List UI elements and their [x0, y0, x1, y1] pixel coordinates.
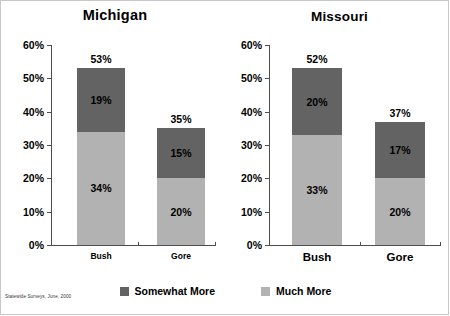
y-axis-tick-michigan-30%: [47, 145, 51, 146]
y-axis-tick-missouri-40%: [265, 112, 269, 113]
chart-title-missouri: Missouri: [229, 9, 450, 24]
x-axis-end-tick-michigan: [215, 242, 216, 246]
y-axis-tick-michigan-10%: [47, 212, 51, 213]
bar-total-label-michigan-bush: 53%: [77, 53, 125, 65]
y-axis-tick-michigan-40%: [47, 112, 51, 113]
bar-segment-value-somewhat-more: 17%: [389, 144, 410, 156]
bar-segment-much-more-michigan-gore[interactable]: 20%: [157, 178, 205, 245]
y-axis-label-michigan: 10%: [23, 206, 44, 218]
x-axis-category-slot: Bush: [292, 245, 342, 246]
y-axis-tick-michigan-0%: [47, 245, 51, 246]
y-axis-tick-michigan-60%: [47, 45, 51, 46]
bar-segment-much-more-michigan-bush[interactable]: 34%: [77, 132, 125, 245]
x-axis-category-label-michigan-gore: Gore: [157, 251, 205, 261]
chart-title-michigan: Michigan: [1, 7, 229, 23]
bar-segment-value-much-more: 33%: [306, 184, 327, 196]
y-axis-label-michigan: 40%: [23, 106, 44, 118]
bar-segment-somewhat-more-michigan-gore[interactable]: 15%: [157, 128, 205, 178]
chart-figure: Michigan 0%10%20%30%40%50%60%34%19%53%Bu…: [0, 0, 449, 315]
x-axis-category-label-missouri-gore: Gore: [375, 251, 425, 263]
bar-segment-much-more-missouri-gore[interactable]: 20%: [375, 178, 425, 245]
bar-michigan-bush[interactable]: 34%19%53%: [77, 68, 125, 245]
source-footnote: Statewide Surveys, June, 2000: [5, 294, 71, 299]
legend-item-somewhat-more[interactable]: Somewhat More: [120, 285, 216, 297]
bar-missouri-bush[interactable]: 33%20%52%: [292, 68, 342, 245]
plot-area-missouri: 0%10%20%30%40%50%60%33%20%52%Bush20%17%3…: [269, 45, 441, 246]
y-axis-label-missouri: 40%: [241, 106, 262, 118]
bar-missouri-gore[interactable]: 20%17%37%: [375, 122, 425, 245]
chart-panel-michigan: Michigan 0%10%20%30%40%50%60%34%19%53%Bu…: [1, 1, 229, 281]
bar-segment-value-much-more: 34%: [90, 182, 111, 194]
y-axis-label-missouri: 30%: [241, 139, 262, 151]
bar-segment-value-much-more: 20%: [170, 206, 191, 218]
bar-segment-value-somewhat-more: 15%: [170, 147, 191, 159]
bar-segment-value-somewhat-more: 20%: [306, 96, 327, 108]
y-axis-label-michigan: 30%: [23, 139, 44, 151]
bar-segment-value-somewhat-more: 19%: [90, 94, 111, 106]
x-axis-end-tick-missouri: [440, 242, 441, 246]
y-axis-line-missouri: [269, 45, 270, 246]
y-axis-tick-missouri-20%: [265, 178, 269, 179]
bar-segment-much-more-missouri-bush[interactable]: 33%: [292, 135, 342, 245]
bar-total-label-missouri-gore: 37%: [375, 107, 425, 119]
bar-segment-somewhat-more-michigan-bush[interactable]: 19%: [77, 68, 125, 131]
legend-label: Much More: [276, 285, 331, 297]
legend-item-much-more[interactable]: Much More: [261, 285, 331, 297]
x-axis-category-tick-missouri: [360, 242, 361, 246]
x-axis-category-slot: Bush: [77, 245, 125, 246]
x-axis-category-slot: Gore: [375, 245, 425, 246]
y-axis-label-missouri: 10%: [241, 206, 262, 218]
y-axis-label-missouri: 20%: [241, 172, 262, 184]
y-axis-tick-michigan-50%: [47, 78, 51, 79]
legend-swatch-somewhat-more: [120, 287, 129, 296]
y-axis-tick-missouri-0%: [265, 245, 269, 246]
y-axis-tick-missouri-50%: [265, 78, 269, 79]
y-axis-line-michigan: [51, 45, 52, 246]
x-axis-category-tick-michigan: [138, 242, 139, 246]
bar-michigan-gore[interactable]: 20%15%35%: [157, 128, 205, 245]
legend-swatch-much-more: [261, 287, 270, 296]
y-axis-label-missouri: 60%: [241, 39, 262, 51]
x-axis-category-label-michigan-bush: Bush: [77, 251, 125, 261]
y-axis-label-missouri: 0%: [247, 239, 262, 251]
y-axis-label-missouri: 50%: [241, 72, 262, 84]
bar-segment-somewhat-more-missouri-bush[interactable]: 20%: [292, 68, 342, 135]
y-axis-label-michigan: 50%: [23, 72, 44, 84]
y-axis-label-michigan: 60%: [23, 39, 44, 51]
chart-panel-missouri: Missouri 0%10%20%30%40%50%60%33%20%52%Bu…: [229, 1, 450, 281]
y-axis-tick-missouri-30%: [265, 145, 269, 146]
y-axis-tick-michigan-20%: [47, 178, 51, 179]
y-axis-label-michigan: 0%: [29, 239, 44, 251]
bar-segment-somewhat-more-missouri-gore[interactable]: 17%: [375, 122, 425, 179]
x-axis-category-label-missouri-bush: Bush: [292, 251, 342, 263]
y-axis-tick-missouri-60%: [265, 45, 269, 46]
y-axis-tick-missouri-10%: [265, 212, 269, 213]
bar-segment-value-much-more: 20%: [389, 206, 410, 218]
x-axis-category-slot: Gore: [157, 245, 205, 246]
plot-area-michigan: 0%10%20%30%40%50%60%34%19%53%Bush20%15%3…: [51, 45, 216, 246]
bar-total-label-michigan-gore: 35%: [157, 113, 205, 125]
bar-total-label-missouri-bush: 52%: [292, 53, 342, 65]
y-axis-label-michigan: 20%: [23, 172, 44, 184]
legend-label: Somewhat More: [135, 285, 216, 297]
